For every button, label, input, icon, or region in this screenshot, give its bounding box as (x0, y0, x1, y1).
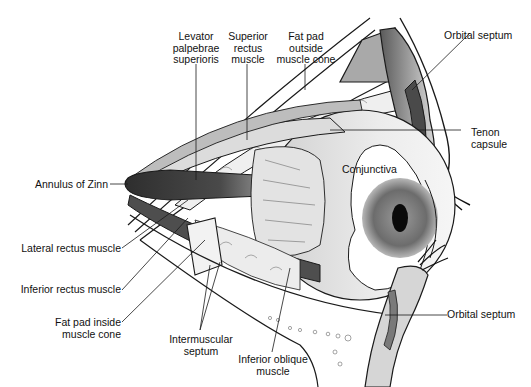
label-fat-pad-outside-muscle-cone: Fat pad outside muscle cone (273, 31, 339, 66)
label-orbital-septum-lower: Orbital septum (447, 309, 531, 321)
label-superior-rectus-muscle: Superior rectus muscle (220, 31, 276, 66)
label-conjunctiva: Conjunctiva (342, 164, 422, 176)
intermuscular-septum-plate (187, 218, 222, 275)
label-orbital-septum-upper: Orbital septum (444, 30, 530, 42)
label-tenon-capsule: Tenon capsule (471, 127, 531, 150)
muscle-cone-fibers (251, 147, 325, 257)
label-inferior-rectus-muscle: Inferior rectus muscle (0, 284, 121, 296)
label-fat-pad-inside-muscle-cone: Fat pad inside muscle cone (30, 317, 121, 340)
label-lateral-rectus-muscle: Lateral rectus muscle (0, 243, 121, 255)
pupil (392, 204, 408, 232)
label-intermuscular-septum: Intermuscular septum (165, 334, 237, 357)
lateral-rectus-muscle (125, 170, 262, 200)
label-inferior-oblique-muscle: Inferior oblique muscle (228, 354, 318, 377)
label-annulus-of-zinn: Annulus of Zinn (0, 179, 108, 191)
